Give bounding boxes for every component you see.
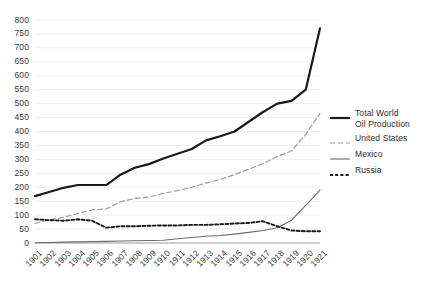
- y-axis-tick: 550: [3, 84, 29, 94]
- legend-swatch-icon: [330, 109, 350, 120]
- y-axis-tick: 450: [3, 112, 29, 122]
- legend-label: Mexico: [355, 149, 383, 160]
- legend-label: United States: [355, 133, 407, 144]
- legend-item[interactable]: Mexico: [330, 149, 434, 161]
- series-line-2: [35, 190, 320, 243]
- y-axis-tick: 0: [3, 238, 29, 248]
- y-axis-tick: 350: [3, 140, 29, 150]
- legend-item[interactable]: United States: [330, 133, 434, 145]
- y-axis-tick: 100: [3, 210, 29, 220]
- legend-label: Total World Oil Production: [355, 108, 410, 129]
- y-axis-tick: 50: [3, 224, 29, 234]
- legend-item[interactable]: Total World Oil Production: [330, 108, 434, 129]
- series-line-1: [35, 113, 320, 223]
- legend-swatch-icon: [330, 134, 350, 145]
- series-line-3: [35, 219, 320, 231]
- y-axis-tick: 650: [3, 56, 29, 66]
- y-axis-tick: 500: [3, 98, 29, 108]
- y-axis-tick: 250: [3, 168, 29, 178]
- y-axis-tick: 700: [3, 42, 29, 52]
- y-axis-tick: 750: [3, 28, 29, 38]
- series-line-0: [35, 28, 320, 196]
- chart-legend: Total World Oil ProductionUnited StatesM…: [330, 108, 434, 181]
- y-axis-tick: 400: [3, 126, 29, 136]
- y-axis-tick: 150: [3, 196, 29, 206]
- legend-item[interactable]: Russia: [330, 165, 434, 177]
- y-axis-tick: 600: [3, 70, 29, 80]
- legend-label: Russia: [355, 165, 382, 176]
- legend-swatch-icon: [330, 166, 350, 177]
- legend-swatch-icon: [330, 150, 350, 161]
- y-axis-tick: 800: [3, 15, 29, 25]
- y-axis-tick: 200: [3, 182, 29, 192]
- y-axis-tick: 300: [3, 154, 29, 164]
- oil-production-line-chart: 0501001502002503003504004505005506006507…: [0, 0, 435, 287]
